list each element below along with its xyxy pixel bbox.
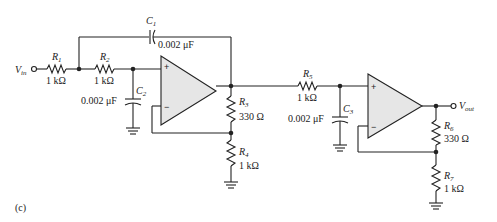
resistor-r3 — [227, 96, 235, 122]
figure-label: (c) — [15, 202, 26, 214]
resistor-r5 — [298, 82, 317, 90]
opamp2-minus: − — [371, 122, 376, 132]
r1-value: 1 kΩ — [46, 75, 66, 86]
r2-name: R2 — [99, 51, 110, 64]
r2-value: 1 kΩ — [94, 75, 114, 86]
resistor-r4 — [227, 140, 235, 166]
vin-terminal — [32, 67, 37, 72]
resistor-r2 — [95, 65, 114, 73]
circuit-diagram: + − + − Vin Vout R1 1 kΩ R2 1 kΩ C1 0.00… — [0, 0, 497, 222]
c2-name: C2 — [136, 85, 147, 98]
opamp1-plus: + — [164, 62, 169, 72]
r7-value: 1 kΩ — [444, 183, 464, 194]
opamp2-plus: + — [371, 82, 376, 92]
r3-name: R3 — [238, 96, 249, 109]
r1-name: R1 — [51, 51, 62, 64]
r4-value: 1 kΩ — [239, 160, 259, 171]
r7-name: R7 — [443, 170, 454, 183]
vin-label: Vin — [15, 64, 27, 77]
r6-name: R6 — [443, 120, 454, 133]
c1-value: 0.002 μF — [158, 39, 194, 50]
r5-value: 1 kΩ — [297, 92, 317, 103]
c3-value: 0.002 μF — [288, 113, 324, 124]
resistor-r1 — [47, 65, 66, 73]
opamp1-minus: − — [164, 102, 169, 112]
r6-value: 330 Ω — [444, 133, 469, 144]
r5-name: R5 — [302, 68, 313, 81]
vout-terminal — [451, 104, 456, 109]
resistor-r6 — [432, 120, 440, 145]
vout-label: Vout — [459, 100, 475, 113]
r4-name: R4 — [238, 146, 249, 159]
c1-name: C1 — [146, 15, 156, 28]
c3-name: C3 — [343, 103, 354, 116]
resistor-r7 — [432, 165, 440, 191]
r3-value: 330 Ω — [239, 111, 264, 122]
c2-value: 0.002 μF — [81, 95, 117, 106]
